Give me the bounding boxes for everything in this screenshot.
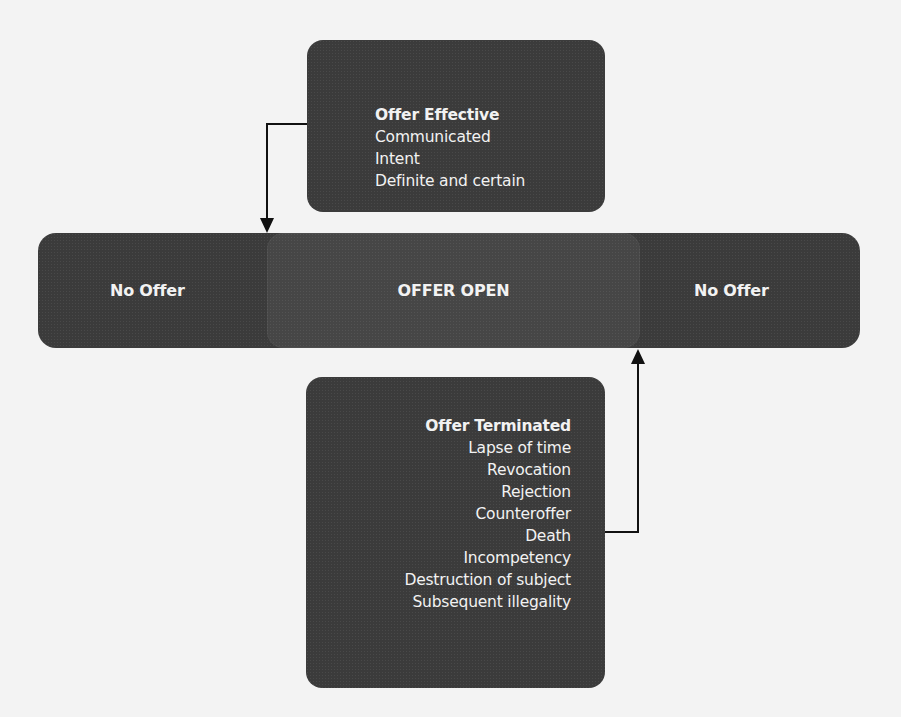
offer-terminated-item: Incompetency [306, 547, 571, 569]
offer-effective-box: Offer Effective Communicated Intent Defi… [307, 40, 605, 212]
offer-effective-item: Communicated [375, 126, 605, 148]
offer-timeline-bar: No Offer OFFER OPEN No Offer [38, 233, 860, 348]
offer-terminated-item: Lapse of time [306, 437, 571, 459]
arrow-head-up-icon [631, 349, 645, 364]
arrow-terminated-to-no-offer [605, 362, 638, 532]
offer-terminated-box: Offer Terminated Lapse of time Revocatio… [306, 377, 605, 688]
offer-terminated-item: Death [306, 525, 571, 547]
offer-terminated-item: Revocation [306, 459, 571, 481]
offer-terminated-item: Destruction of subject [306, 569, 571, 591]
offer-effective-item: Intent [375, 148, 605, 170]
no-offer-left-label: No Offer [110, 233, 185, 348]
offer-terminated-title: Offer Terminated [306, 415, 571, 437]
offer-open-label: OFFER OPEN [267, 233, 640, 348]
no-offer-right-label: No Offer [694, 233, 769, 348]
offer-terminated-item: Rejection [306, 481, 571, 503]
arrow-offer-effective-to-open [267, 124, 307, 222]
offer-terminated-item: Subsequent illegality [306, 591, 571, 613]
arrow-head-down-icon [260, 218, 274, 233]
offer-terminated-item: Counteroffer [306, 503, 571, 525]
offer-effective-title: Offer Effective [375, 104, 605, 126]
offer-effective-item: Definite and certain [375, 170, 605, 192]
